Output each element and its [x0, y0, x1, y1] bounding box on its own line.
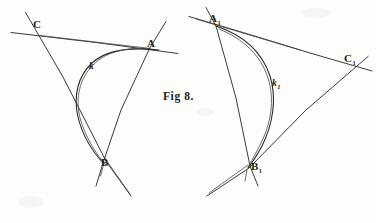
- line-b1c1-right: [207, 57, 368, 197]
- figure-canvas: C A B k Fig 8. A1 C1 B1 k1: [0, 0, 376, 223]
- point-label-a: A: [147, 38, 155, 49]
- point-label-b1: B1: [251, 161, 262, 175]
- curve-k1-right-shadow: [219, 29, 271, 167]
- tick-b1-right: [245, 170, 247, 181]
- curve-label-k1-subscript: 1: [277, 83, 281, 90]
- point-label-c: C: [33, 19, 41, 30]
- right-panel-group: [189, 8, 372, 197]
- point-label-c1-base: C: [344, 52, 352, 64]
- curve-k1-right: [216, 26, 273, 168]
- line-ca-left-overstroke: [40, 36, 150, 49]
- point-label-a1-subscript: 1: [217, 19, 221, 26]
- line-b1c1-right-overstroke: [209, 165, 248, 193]
- curve-label-k1: k1: [272, 79, 281, 90]
- curve-label-k: k: [89, 62, 94, 72]
- point-label-a1-base: A: [209, 12, 217, 24]
- point-label-c1-subscript: 1: [352, 59, 356, 66]
- point-label-c1: C1: [344, 53, 356, 67]
- figure-caption: Fig 8.: [163, 91, 194, 103]
- geometric-diagram: [0, 0, 376, 223]
- point-label-b1-subscript: 1: [258, 167, 262, 174]
- point-label-a1: A1: [209, 13, 221, 27]
- point-label-b: B: [101, 157, 108, 168]
